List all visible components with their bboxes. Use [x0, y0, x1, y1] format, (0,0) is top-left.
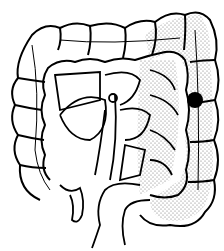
colon-illustration — [0, 0, 224, 251]
cecum-appendix — [60, 185, 83, 222]
lesion-marker — [187, 92, 203, 108]
